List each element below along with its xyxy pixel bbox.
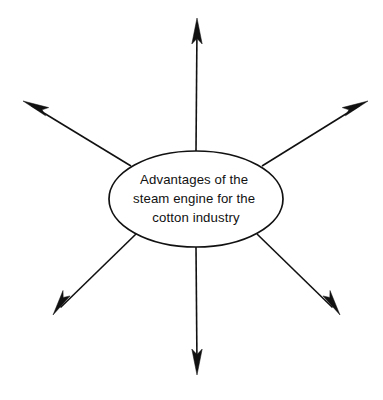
spoke-lower-right-arrowhead — [323, 291, 340, 316]
center-node-label-line-2: steam engine for the — [133, 191, 255, 206]
spoke-lower-right-line — [257, 234, 333, 308]
spoke-lower-left-arrowhead — [53, 291, 70, 316]
spoke-upper-left[interactable] — [23, 101, 131, 166]
spoke-lower-right[interactable] — [257, 234, 340, 315]
spider-diagram-svg: Advantages of the steam engine for the c… — [0, 0, 383, 400]
spoke-upper-right-line — [262, 106, 360, 167]
spoke-upper-right[interactable] — [262, 101, 368, 166]
center-node[interactable]: Advantages of the steam engine for the c… — [109, 151, 283, 247]
center-node-label-line-3: cotton industry — [152, 210, 240, 225]
spoke-up-line — [196, 26, 197, 151]
spoke-lower-left-line — [61, 234, 137, 308]
spoke-down-line — [196, 247, 197, 367]
center-node-label-line-1: Advantages of the — [140, 172, 248, 187]
spoke-upper-left-line — [32, 106, 132, 167]
diagram-canvas: Advantages of the steam engine for the c… — [0, 0, 383, 400]
spoke-up[interactable] — [192, 18, 202, 151]
spoke-lower-left[interactable] — [53, 234, 136, 315]
spoke-down[interactable] — [192, 247, 202, 375]
